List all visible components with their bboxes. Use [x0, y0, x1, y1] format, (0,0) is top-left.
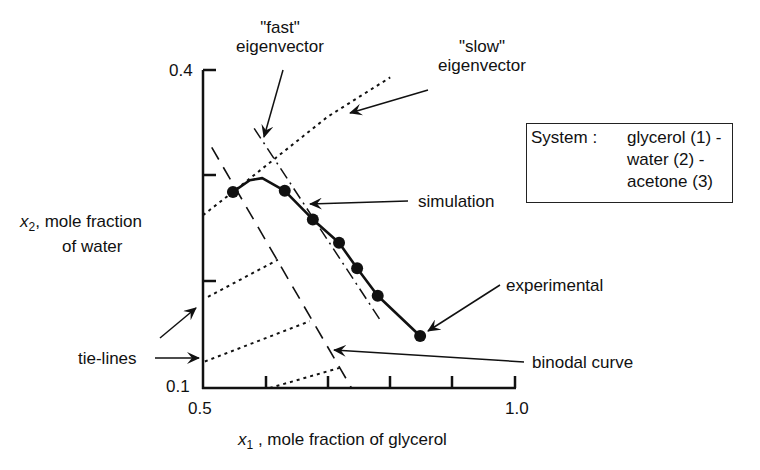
slow-arrow: [350, 90, 428, 113]
y-tick-top: 0.4: [169, 61, 193, 80]
y-axis-text-2: of water: [20, 237, 142, 256]
x-axis-label: x1 , mole fraction of glycerol: [238, 430, 447, 455]
legend-line-1: glycerol (1) -: [627, 127, 721, 149]
tie-lines-segment: [205, 321, 310, 361]
fast-arrow: [264, 70, 283, 137]
tie-lines-label: tie-lines: [78, 349, 137, 368]
x-axis: [202, 376, 516, 388]
simulation-label: simulation: [418, 192, 495, 211]
legend-key: System :: [531, 127, 627, 149]
system-legend-box: System :glycerol (1) - water (2) - aceto…: [526, 123, 733, 203]
binodal-curve-label: binodal curve: [532, 353, 633, 372]
binodal-curve-line: [212, 147, 352, 388]
x-tick-right: 1.0: [505, 399, 529, 418]
binodal-arrow: [334, 350, 524, 362]
experimental-arrow: [428, 285, 500, 331]
slow-quote-text: "slow": [422, 37, 542, 56]
fast-eigenvector-text: eigenvector: [220, 37, 340, 56]
x-tick-left: 0.5: [188, 399, 212, 418]
tie-lines-segment: [208, 260, 278, 297]
fast-quote-text: "fast": [220, 18, 340, 37]
legend-line-3: acetone (3): [627, 171, 713, 193]
fast-eigenvector-line: [254, 128, 379, 319]
y-axis-text-1: , mole fraction: [35, 212, 142, 231]
y-axis-var: x: [20, 212, 29, 231]
slow-eigenvector-label: "slow" eigenvector: [422, 37, 542, 75]
annotation-arrows: [155, 70, 524, 362]
series-layer: [203, 77, 426, 388]
x-axis-var: x: [238, 430, 247, 449]
simulation-arrow: [310, 201, 408, 204]
y-axis: [203, 70, 216, 389]
tielines-arrow-upper: [160, 308, 196, 338]
slow-eigenvector-text: eigenvector: [422, 56, 542, 75]
legend-line-2: water (2) -: [627, 149, 704, 171]
x-axis-text: , mole fraction of glycerol: [253, 430, 447, 449]
y-axis-label: x2, mole fraction of water: [20, 212, 142, 256]
fast-eigenvector-label: "fast" eigenvector: [220, 18, 340, 56]
experimental-label: experimental: [506, 276, 603, 295]
y-tick-bottom: 0.1: [166, 377, 190, 396]
